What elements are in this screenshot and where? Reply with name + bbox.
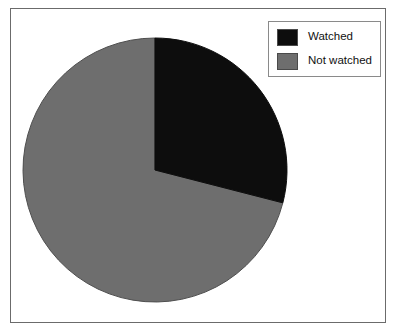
chart-screenshot: Watched Not watched	[0, 0, 396, 334]
chart-legend: Watched Not watched	[268, 21, 381, 77]
legend-label-not-watched: Not watched	[308, 55, 372, 67]
legend-item-watched[interactable]: Watched	[277, 26, 353, 48]
legend-label-watched: Watched	[308, 31, 353, 43]
legend-item-not-watched[interactable]: Not watched	[277, 50, 372, 72]
pie-chart-svg	[14, 22, 296, 318]
legend-swatch-not-watched	[277, 53, 298, 70]
legend-swatch-watched	[277, 29, 298, 46]
